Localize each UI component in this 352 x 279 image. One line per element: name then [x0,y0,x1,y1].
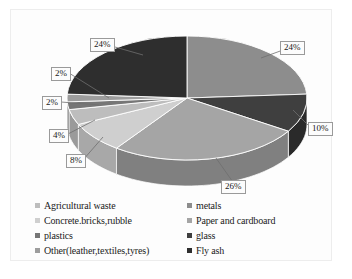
pie-chart: 24% 24% 10% 26% 8% 4% 2% 2% [11,10,331,196]
legend-item-paper-and-cardboard: Paper and cardboard [187,213,331,227]
legend-item-metals: metals [187,198,331,212]
legend-swatch-icon [35,203,40,208]
legend-label: plastics [44,230,73,241]
pie-label-10: 10% [308,122,333,136]
legend-label: Other(leather,textiles,tyres) [44,245,149,256]
legend-item-glass: glass [187,228,331,242]
pie-label-2-upper: 2% [51,67,71,81]
legend-label: Paper and cardboard [196,215,275,226]
pie-slices-group [67,36,307,186]
legend-label: Agricultural waste [44,200,115,211]
figure-frame: 24% 24% 10% 26% 8% 4% 2% 2% Agricultural… [10,9,332,261]
legend-column-left: Agricultural waste Concrete.bricks,rubbl… [11,198,179,260]
legend-label: Concrete.bricks,rubble [44,215,132,226]
legend-swatch-icon [187,248,192,253]
pie-label-2-lower: 2% [42,96,62,110]
legend-swatch-icon [35,248,40,253]
legend-item-fly-ash: Fly ash [187,243,331,257]
legend-swatch-icon [187,233,192,238]
legend-swatch-icon [35,233,40,238]
legend-item-agricultural-waste: Agricultural waste [35,198,179,212]
pie-label-24-right: 24% [280,41,305,55]
legend-label: metals [196,200,221,211]
legend-item-other: Other(leather,textiles,tyres) [35,243,179,257]
legend-item-plastics: plastics [35,228,179,242]
pie-label-26: 26% [221,180,246,194]
legend-column-right: metals Paper and cardboard glass Fly ash [179,198,331,260]
pie-slice-top [67,36,187,98]
pie-label-24-left: 24% [90,38,115,52]
legend-label: Fly ash [196,245,224,256]
legend-swatch-icon [187,203,192,208]
pie-label-4: 4% [49,129,69,143]
pie-label-8: 8% [66,154,86,168]
legend-swatch-icon [187,218,192,223]
legend-swatch-icon [35,218,40,223]
legend-label: glass [196,230,215,241]
legend-item-concrete-bricks-rubble: Concrete.bricks,rubble [35,213,179,227]
chart-legend: Agricultural waste Concrete.bricks,rubbl… [11,198,331,260]
